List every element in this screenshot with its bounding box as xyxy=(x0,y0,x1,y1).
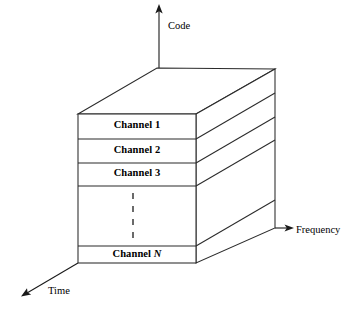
channel-2-text: Channel 2 xyxy=(114,144,161,155)
axis-label-frequency: Frequency xyxy=(296,224,340,235)
channel-n-text: Channel xyxy=(112,248,153,259)
channel-1-text: Channel 1 xyxy=(114,119,161,130)
diagram-vector-graphics xyxy=(0,0,350,312)
channel-label-1: Channel 1 xyxy=(78,119,196,130)
channel-label-3: Channel 3 xyxy=(78,167,196,178)
block-front-face xyxy=(78,114,196,263)
axis-label-code: Code xyxy=(168,20,190,31)
channel-label-n: Channel N xyxy=(78,248,196,259)
channel-3-text: Channel 3 xyxy=(114,167,161,178)
channel-n-index: N xyxy=(154,248,162,259)
diagram-canvas: Channel 1 Channel 2 Channel 3 Channel N … xyxy=(0,0,350,312)
channel-label-2: Channel 2 xyxy=(78,144,196,155)
down-left-arrow-icon xyxy=(21,288,31,296)
axis-frequency xyxy=(275,224,294,231)
axis-label-time: Time xyxy=(48,285,70,296)
